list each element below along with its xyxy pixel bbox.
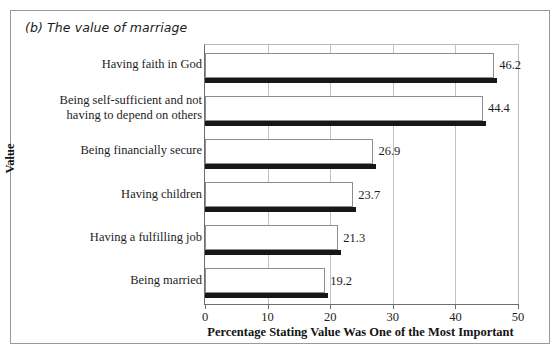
x-axis-tick (518, 304, 519, 309)
x-axis-tick-label: 40 (449, 310, 462, 325)
bar-value-label: 46.2 (499, 58, 521, 73)
figure-panel: (b) The value of marriage Value Having f… (10, 10, 550, 344)
bar[interactable] (205, 53, 494, 78)
category-label-line: Having a fulfilling job (22, 230, 202, 245)
category-label: Having a fulfilling job (22, 230, 202, 245)
gridline (393, 45, 394, 304)
bar-row[interactable]: 21.3 (205, 225, 518, 250)
bar-row[interactable]: 23.7 (205, 182, 518, 207)
x-axis-tick-label: 0 (202, 310, 208, 325)
bar-value-label: 19.2 (330, 273, 352, 288)
category-label: Having children (22, 187, 202, 202)
bar-value-label: 23.7 (358, 187, 380, 202)
category-label: Being self-sufficient and nothaving to d… (22, 93, 202, 123)
bar[interactable] (205, 96, 483, 121)
gridline (330, 45, 331, 304)
bar-value-label: 44.4 (488, 101, 510, 116)
bar-shadow (205, 207, 356, 212)
bar[interactable] (205, 182, 353, 207)
x-axis-tick (205, 304, 206, 309)
category-label-line: Having faith in God (22, 57, 202, 72)
bar-value-label: 21.3 (343, 230, 365, 245)
category-label: Being financially secure (22, 143, 202, 158)
category-label-line: Being financially secure (22, 143, 202, 158)
bar[interactable] (205, 225, 338, 250)
x-axis-tick-label: 10 (261, 310, 274, 325)
bar-value-label: 26.9 (378, 144, 400, 159)
category-label-line: Being married (22, 273, 202, 288)
category-label: Having faith in God (22, 57, 202, 72)
x-axis-tick-label: 30 (387, 310, 400, 325)
x-axis-tick (393, 304, 394, 309)
bar-shadow (205, 293, 328, 298)
category-label-group: Having faith in GodBeing self-sufficient… (16, 44, 202, 303)
category-label-line: Having children (22, 187, 202, 202)
plot-area: 0102030405046.244.426.923.721.319.2 (204, 44, 519, 305)
figure-title: (b) The value of marriage (25, 20, 187, 35)
gridline (268, 45, 269, 304)
bar-shadow (205, 164, 376, 169)
x-axis-tick (330, 304, 331, 309)
x-axis-tick-label: 20 (324, 310, 337, 325)
bar-row[interactable]: 44.4 (205, 96, 518, 121)
gridline (455, 45, 456, 304)
bar-row[interactable]: 46.2 (205, 53, 518, 78)
bar-row[interactable]: 26.9 (205, 139, 518, 164)
x-axis-tick-label: 50 (512, 310, 525, 325)
bar-shadow (205, 250, 341, 255)
category-label: Being married (22, 273, 202, 288)
x-axis-tick (455, 304, 456, 309)
bar[interactable] (205, 268, 325, 293)
category-label-line: Being self-sufficient and not (22, 93, 202, 108)
x-axis-title: Percentage Stating Value Was One of the … (204, 325, 517, 340)
bar-shadow (205, 121, 486, 126)
bar-row[interactable]: 19.2 (205, 268, 518, 293)
bar-shadow (205, 78, 497, 83)
x-axis-tick (268, 304, 269, 309)
bar[interactable] (205, 139, 373, 164)
category-label-line: having to depend on others (22, 108, 202, 123)
